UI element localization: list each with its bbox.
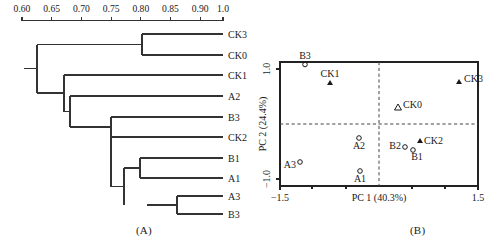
dendrogram-tree <box>24 34 223 214</box>
y-axis-title: PC 2 (24.4%) <box>257 97 269 152</box>
point-label-b1: B1 <box>411 151 423 162</box>
point-label-ck1: CK1 <box>321 68 340 79</box>
point-label-ck0: CK0 <box>403 99 422 110</box>
scatter-points: B3 CK1 CK3 CK0 A2 B2 CK2 <box>284 50 483 184</box>
leaf-label-0: CK3 <box>228 29 247 40</box>
y-tick-max-label: 1.0 <box>261 63 272 76</box>
leaf-label-3: A2 <box>228 91 240 102</box>
x-tick-min-label: −1.5 <box>271 192 289 203</box>
leaf-label-8: A3 <box>228 191 240 202</box>
leaf-label-1: CK0 <box>228 50 247 61</box>
pca-scatter-svg: −1.5 1.5 1.0 −1.0 PC 1 (40.3%) PC 2 (24.… <box>252 0 494 222</box>
panel-b-caption: (B) <box>410 224 425 236</box>
scale-tick-3: 0.75 <box>103 3 120 14</box>
y-tick-min-label: −1.0 <box>261 170 272 188</box>
point-marker-ck2[interactable] <box>417 138 423 143</box>
leaf-label-9: B3 <box>228 209 240 220</box>
point-marker-ck1[interactable] <box>327 80 333 85</box>
scale-tick-4: 0.80 <box>132 3 149 14</box>
point-label-a1: A1 <box>354 173 366 184</box>
panel-b-pca-scatter: −1.5 1.5 1.0 −1.0 PC 1 (40.3%) PC 2 (24.… <box>252 0 494 248</box>
scale-tick-5: 0.85 <box>162 3 179 14</box>
leaf-label-5: CK2 <box>228 132 247 143</box>
point-marker-b2[interactable] <box>403 145 408 150</box>
point-label-b3-top: B3 <box>299 50 311 61</box>
point-label-ck3: CK3 <box>464 73 483 84</box>
point-label-b2: B2 <box>389 140 401 151</box>
x-tick-max-label: 1.5 <box>472 192 485 203</box>
figure-root: 0.60 0.65 0.70 0.75 0.80 0.85 0.90 1.0 <box>0 0 494 248</box>
scale-tick-2: 0.70 <box>73 3 90 14</box>
scale-tick-0: 0.60 <box>14 3 31 14</box>
scale-tick-6: 0.90 <box>192 3 209 14</box>
panel-a-dendrogram: 0.60 0.65 0.70 0.75 0.80 0.85 0.90 1.0 <box>0 0 252 248</box>
point-marker-ck3[interactable] <box>456 79 462 84</box>
leaf-label-2: CK1 <box>228 70 247 81</box>
point-label-a3: A3 <box>284 159 296 170</box>
leaf-label-6: B1 <box>228 153 240 164</box>
scale-tick-1: 0.65 <box>43 3 60 14</box>
similarity-scale-axis: 0.60 0.65 0.70 0.75 0.80 0.85 0.90 1.0 <box>14 3 230 21</box>
dendrogram-leaf-labels: CK3 CK0 CK1 A2 B3 CK2 B1 A1 A3 B3 <box>228 29 247 220</box>
point-marker-a3[interactable] <box>298 160 303 165</box>
dendrogram-svg: 0.60 0.65 0.70 0.75 0.80 0.85 0.90 1.0 <box>0 0 252 222</box>
scale-tick-7: 1.0 <box>217 3 229 14</box>
axis-ticks <box>276 69 478 190</box>
leaf-label-7: A1 <box>228 173 240 184</box>
point-marker-ck0[interactable] <box>395 104 402 110</box>
panel-a-caption: (A) <box>136 224 152 236</box>
point-marker-b3-top[interactable] <box>303 62 308 67</box>
x-axis-title: PC 1 (40.3%) <box>352 192 407 204</box>
leaf-label-4: B3 <box>228 112 240 123</box>
point-label-ck2: CK2 <box>424 135 443 146</box>
point-label-a2: A2 <box>353 140 365 151</box>
